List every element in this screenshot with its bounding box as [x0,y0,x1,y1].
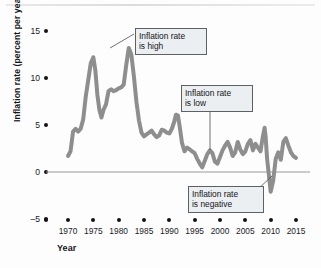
leader-line-high [110,34,134,48]
annotation-inflation-high: Inflation rate is high [135,28,207,55]
annotation-inflation-negative: Inflation rate is negative [188,186,264,213]
inflation-rate-line [68,48,296,192]
annotation-leader-lines [110,34,272,190]
annotation-inflation-low: Inflation rate is low [181,85,253,112]
inflation-rate-chart-figure: Inflation rate (percent per year) Year 1… [0,0,321,268]
